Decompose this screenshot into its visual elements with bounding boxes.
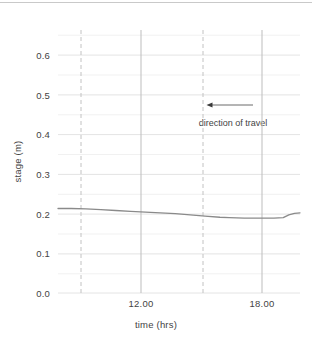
plot-canvas xyxy=(0,0,312,344)
chart-figure: 0.6 0.5 0.4 0.3 0.2 0.1 0.0 12.00 18.00 … xyxy=(0,0,312,344)
grid-major-horizontal xyxy=(58,55,300,293)
data-series-stage xyxy=(58,209,300,219)
grid-minor-horizontal xyxy=(58,35,300,274)
direction-of-travel-arrow xyxy=(207,103,254,108)
